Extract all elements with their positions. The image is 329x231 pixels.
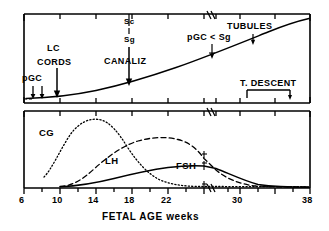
t-descent-bracket: [247, 90, 292, 100]
label-sg: Sg: [124, 36, 135, 44]
label-cords: CORDS: [37, 58, 72, 67]
fetal-endocrine-figure: pGC LC CORDS Sc Sg CANALIZ pGC < Sg TUBU…: [0, 0, 329, 231]
pgc-arrow-1: [31, 86, 36, 99]
label-sc: Sc: [124, 18, 135, 26]
x-axis-ticks: [24, 188, 310, 194]
upper-panel-bottom-ticks: [24, 97, 310, 103]
tubules-arrow: [251, 34, 255, 45]
x-tick-label-18: 18: [124, 196, 134, 205]
label-lc: LC: [47, 44, 60, 53]
x-tick-label-22: 22: [161, 196, 171, 205]
pgc-lt-sg-arrow: [209, 44, 215, 59]
lower-top-axis-break-icon: [207, 108, 215, 116]
label-lh: LH: [105, 156, 118, 166]
upper-top-axis-break-icon: [207, 11, 215, 19]
x-tick-label-6: 6: [19, 196, 24, 205]
label-t-descent: T. DESCENT: [240, 79, 297, 88]
x-tick-label-14: 14: [88, 196, 98, 205]
upper-panel-top-ticks: [24, 14, 310, 21]
lower-panel-top-ticks: [24, 111, 310, 117]
x-tick-label-10: 10: [52, 196, 62, 205]
x-tick-label-30: 30: [232, 196, 242, 205]
label-cg: CG: [39, 128, 54, 138]
curve-break-markers: [202, 151, 207, 188]
label-pgc: pGC: [22, 74, 42, 83]
label-canaliz: CANALIZ: [104, 57, 146, 66]
cords-arrow: [54, 68, 60, 98]
lower-panel-frame: [24, 111, 310, 188]
label-tubules: TUBULES: [227, 22, 272, 31]
label-pgc-lt-sg: pGC < Sg: [187, 33, 231, 42]
x-tick-label-38: 38: [302, 196, 312, 205]
label-fsh: FSH: [176, 161, 196, 171]
x-axis-title: FETAL AGE weeks: [102, 212, 199, 222]
